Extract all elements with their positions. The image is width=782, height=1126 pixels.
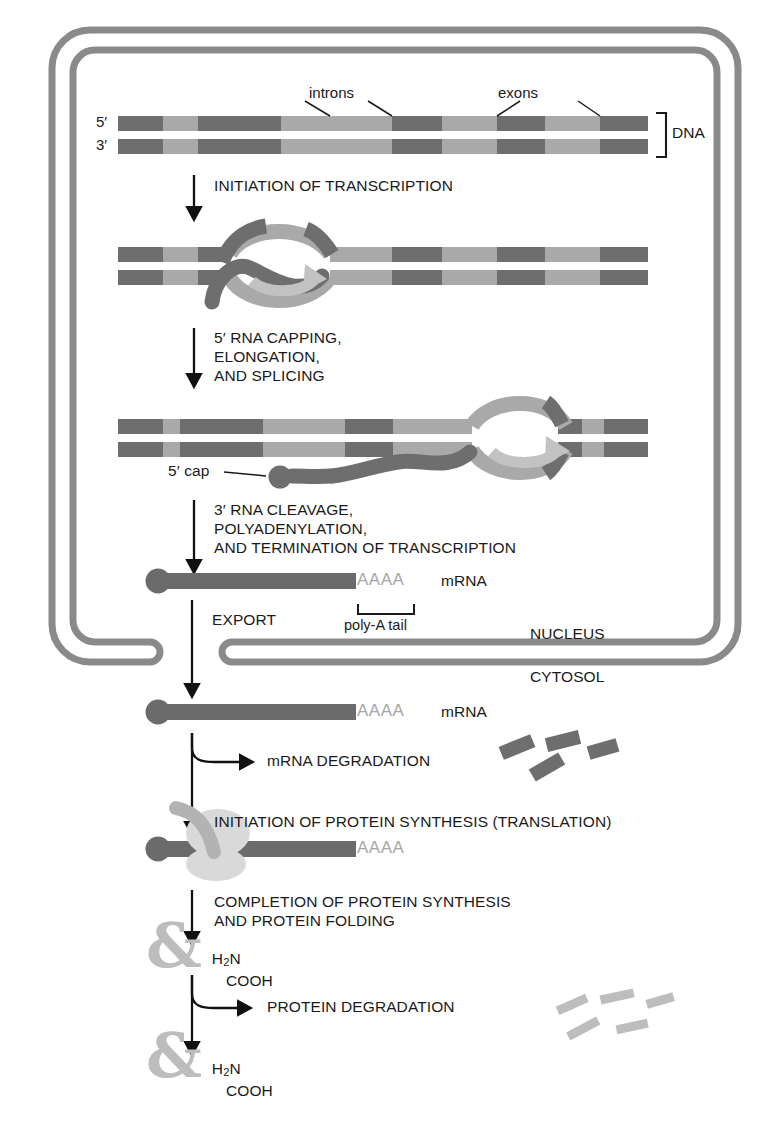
poly-a-tail-label: poly-A tail <box>344 617 407 635</box>
poly-a-letters-cytosol: AAAA <box>357 701 404 721</box>
protein-fragments <box>556 989 675 1041</box>
step-completion-line1: COMPLETION OF PROTEIN SYNTHESIS <box>214 893 511 912</box>
step-capping-line2: ELONGATION, <box>214 348 320 367</box>
transcription-complex-row2 <box>118 226 648 302</box>
dna-bracket-label: DNA <box>672 124 705 143</box>
introns-label: introns <box>309 84 354 102</box>
figure-canvas: introns exons 5′ 3′ DNA INITIATION OF TR… <box>0 0 782 1126</box>
step-cleavage-line1: 3′ RNA CLEAVAGE, <box>214 501 353 520</box>
diagram-svg <box>0 0 782 1126</box>
mrna-fragments <box>499 730 620 781</box>
protein-n-terminus-1: H2N <box>203 931 241 970</box>
nucleus-label: NUCLEUS <box>530 625 605 644</box>
n-term-h-2: H <box>212 1060 223 1077</box>
step-capping-line1: 5′ RNA CAPPING, <box>214 329 342 348</box>
step-initiation-translation: INITIATION OF PROTEIN SYNTHESIS (TRANSLA… <box>214 813 611 832</box>
step-cleavage-line2: POLYADENYLATION, <box>214 520 367 539</box>
folded-protein-glyph-2: & <box>146 1025 202 1087</box>
n-term-n-2: N <box>229 1060 240 1077</box>
n-term-h: H <box>212 950 223 967</box>
exons-label: exons <box>498 84 538 102</box>
mrna-label-nuclear: mRNA <box>441 572 487 591</box>
n-term-n: N <box>229 950 240 967</box>
step-protein-degradation: PROTEIN DEGRADATION <box>267 998 455 1017</box>
step-completion-line2: AND PROTEIN FOLDING <box>214 912 395 931</box>
cytosol-label: CYTOSOL <box>530 668 605 687</box>
dna-duplex-row1 <box>118 101 666 157</box>
poly-a-letters-nuclear: AAAA <box>357 570 404 590</box>
dna-three-prime-label: 3′ <box>96 136 107 154</box>
protein-c-terminus-1: COOH <box>226 972 273 991</box>
step-mrna-degradation: mRNA DEGRADATION <box>267 752 430 771</box>
leader-lines <box>305 101 600 116</box>
step-initiation-transcription: INITIATION OF TRANSCRIPTION <box>214 177 453 196</box>
protein-n-terminus-2: H2N <box>203 1041 241 1080</box>
folded-protein-glyph-1: & <box>146 915 202 977</box>
step-cleavage-line3: AND TERMINATION OF TRANSCRIPTION <box>214 539 516 558</box>
poly-a-letters-ribosome: AAAA <box>357 838 404 858</box>
mrna-label-cytosol: mRNA <box>441 703 487 722</box>
protein-c-terminus-2: COOH <box>226 1082 273 1101</box>
mature-mrna-cytosol <box>146 700 357 725</box>
five-prime-cap <box>269 466 292 489</box>
dna-five-prime-label: 5′ <box>96 113 107 131</box>
step-export: EXPORT <box>212 611 276 630</box>
five-prime-cap-label: 5′ cap <box>168 462 209 481</box>
step-capping-line3: AND SPLICING <box>214 367 325 386</box>
